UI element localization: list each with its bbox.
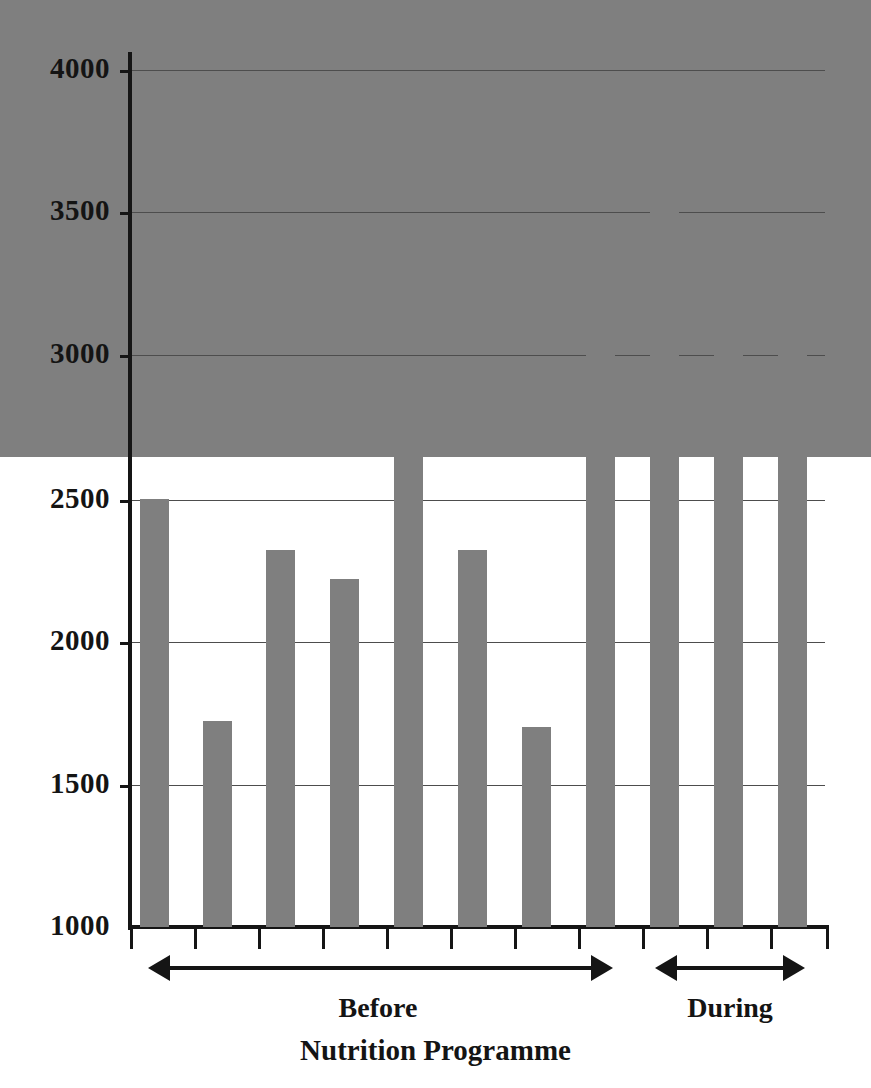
bar-10[interactable] bbox=[714, 233, 743, 927]
before-range-arrow bbox=[148, 955, 613, 981]
x-tick-mark-8 bbox=[642, 929, 645, 949]
bar-11[interactable] bbox=[778, 237, 807, 927]
bar-6[interactable] bbox=[458, 550, 487, 927]
before-group-label: Before bbox=[248, 992, 508, 1024]
during-range-arrow bbox=[655, 955, 805, 981]
y-tick-label-4000: 4000 bbox=[0, 52, 110, 85]
x-tick-mark-9 bbox=[706, 929, 709, 949]
bars-container bbox=[131, 55, 825, 927]
arrow-shaft bbox=[166, 966, 595, 970]
bar-8[interactable] bbox=[586, 293, 615, 927]
bar-3[interactable] bbox=[266, 550, 295, 927]
x-tick-mark-0 bbox=[130, 929, 133, 949]
bar-5[interactable] bbox=[394, 436, 423, 927]
x-tick-mark-7 bbox=[578, 929, 581, 949]
x-tick-mark-5 bbox=[450, 929, 453, 949]
x-axis-title: Nutrition Programme bbox=[0, 1034, 871, 1067]
x-tick-mark-4 bbox=[386, 929, 389, 949]
arrow-head-right-icon bbox=[783, 955, 805, 981]
y-tick-label-1500: 1500 bbox=[0, 767, 110, 800]
y-tick-label-2000: 2000 bbox=[0, 624, 110, 657]
x-tick-mark-2 bbox=[258, 929, 261, 949]
x-tick-mark-3 bbox=[322, 929, 325, 949]
y-tick-label-1000: 1000 bbox=[0, 909, 110, 942]
x-tick-mark-11 bbox=[826, 929, 829, 949]
y-tick-label-3000: 3000 bbox=[0, 337, 110, 370]
y-tick-label-2500: 2500 bbox=[0, 482, 110, 515]
bar-2[interactable] bbox=[203, 721, 232, 927]
bar-1[interactable] bbox=[140, 499, 169, 928]
arrow-shaft bbox=[673, 966, 787, 970]
x-tick-mark-10 bbox=[770, 929, 773, 949]
arrow-head-right-icon bbox=[591, 955, 613, 981]
bar-4[interactable] bbox=[330, 579, 359, 928]
x-tick-mark-1 bbox=[194, 929, 197, 949]
y-tick-label-3500: 3500 bbox=[0, 194, 110, 227]
bar-7[interactable] bbox=[522, 727, 551, 927]
x-tick-mark-6 bbox=[514, 929, 517, 949]
bar-9[interactable] bbox=[650, 150, 679, 927]
bar-chart: 4000 3500 3000 2500 2000 1500 1000 bbox=[0, 0, 871, 457]
during-group-label: During bbox=[620, 992, 840, 1024]
